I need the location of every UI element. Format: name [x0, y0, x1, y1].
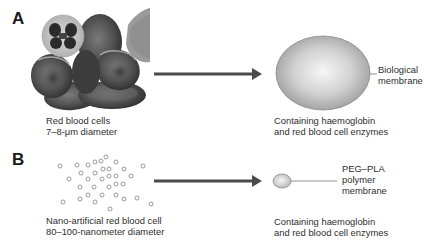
rbc-caption-line1: Red blood cells	[46, 115, 117, 126]
cell-contents-caption-a: Containing haemoglobin and red blood cel…	[274, 115, 388, 137]
membrane-label-line1: Biological	[378, 64, 423, 75]
peg-pla-membrane-label: PEG–PLA polymer membrane	[342, 163, 387, 196]
rbc-caption-line2: 7–8-μm diameter	[46, 126, 117, 137]
red-blood-cells-image	[26, 8, 150, 112]
cell-contents-caption-b: Containing haemoglobin and red blood cel…	[274, 216, 388, 238]
rbc-caption: Red blood cells 7–8-μm diameter	[46, 115, 117, 137]
artificial-cell-large	[276, 36, 377, 110]
nano-particles-image	[58, 155, 153, 211]
peg-label-line2: polymer	[342, 174, 387, 185]
nano-rbc-caption: Nano-artificial red blood cell 80–100-na…	[46, 215, 164, 237]
contents-caption-b-line1: Containing haemoglobin	[274, 216, 388, 227]
nano-caption-line1: Nano-artificial red blood cell	[46, 215, 164, 226]
nano-caption-line2: 80–100-nanometer diameter	[46, 226, 164, 237]
peg-label-line1: PEG–PLA	[342, 163, 387, 174]
membrane-label-line2: membrane	[378, 75, 423, 86]
arrow-a-icon	[154, 68, 262, 80]
arrow-b-icon	[154, 175, 262, 187]
artificial-cell-small	[273, 174, 337, 188]
peg-label-line3: membrane	[342, 185, 387, 196]
biological-membrane-label: Biological membrane	[378, 64, 423, 86]
contents-caption-b-line2: and red blood cell enzymes	[274, 227, 388, 238]
contents-caption-a-line1: Containing haemoglobin	[274, 115, 388, 126]
contents-caption-a-line2: and red blood cell enzymes	[274, 126, 388, 137]
